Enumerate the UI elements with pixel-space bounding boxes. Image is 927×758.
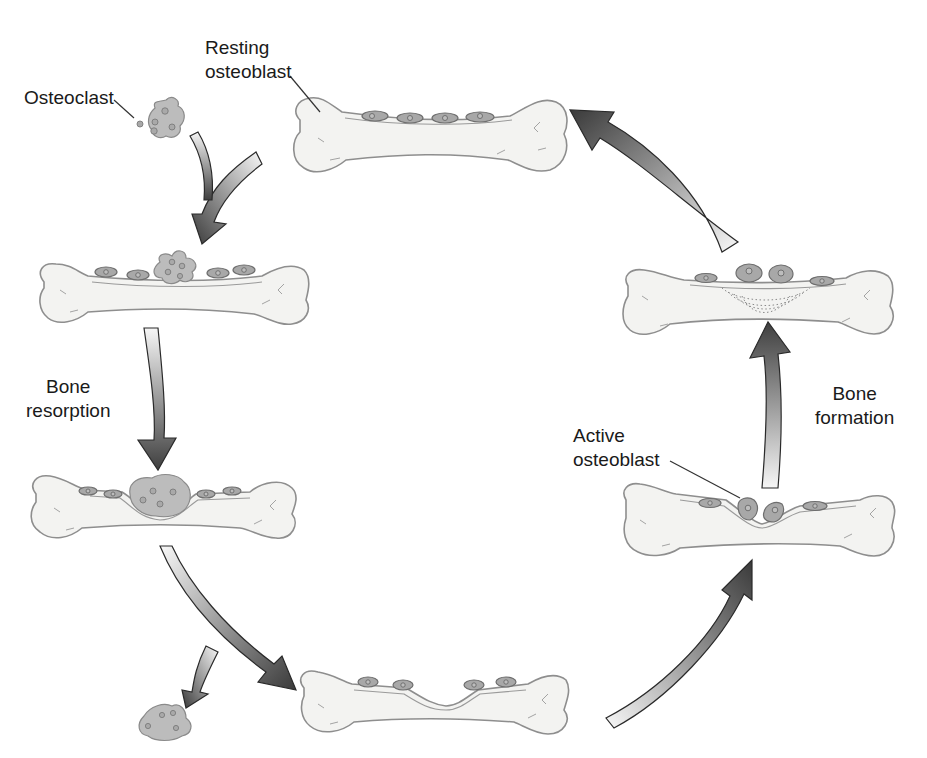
label-active-line2: osteoblast [573,448,660,472]
osteoclast-attached [154,251,196,284]
label-resorption-line2: resorption [26,399,111,423]
label-formation-line2: formation [815,406,894,430]
label-active-osteoblast: Active osteoblast [573,424,660,472]
bone-remodeling-diagram [0,0,927,758]
label-resting-osteoblast: Resting osteoblast [205,36,292,84]
osteoclast-leader [114,100,134,118]
active-osteoblast-leader [670,461,740,498]
osteoclast-detached [139,704,191,740]
bone-resting [294,98,567,172]
arrow-to-attachment [190,132,262,244]
label-resting-line1: Resting [205,36,292,60]
label-resting-line2: osteoblast [205,60,292,84]
label-bone-formation: Bone formation [815,382,894,430]
arrow-to-resorption [138,328,176,470]
label-resorption-line1: Bone [26,375,111,399]
label-bone-resorption: Bone resorption [26,375,111,423]
arrow-to-new-bone [750,322,790,488]
bone-active-formation [624,484,895,556]
label-osteoclast: Osteoclast [24,86,114,110]
label-formation-line1: Bone [815,382,894,406]
label-active-line1: Active [573,424,660,448]
arrow-to-reversal [160,546,296,708]
osteoclast-cell [137,98,184,138]
arrow-to-active-formation [606,560,752,728]
osteoclast-resorbing [130,475,190,517]
bone-cavity [301,671,569,734]
arrow-to-resting [570,110,738,252]
